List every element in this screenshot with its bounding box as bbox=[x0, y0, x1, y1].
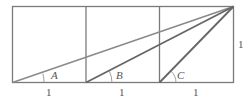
three-squares-diagram: A B C 1 1 1 1 bbox=[0, 0, 247, 100]
segment-c bbox=[160, 7, 234, 83]
bottom-length-label-2: 1 bbox=[119, 86, 125, 98]
angle-label-b: B bbox=[116, 69, 123, 81]
angle-arc-a bbox=[43, 74, 44, 83]
angle-label-c: C bbox=[177, 69, 185, 81]
segment-a bbox=[13, 7, 234, 83]
angle-arc-c bbox=[171, 71, 176, 83]
angle-arc-b bbox=[109, 71, 112, 83]
bottom-length-label-3: 1 bbox=[193, 86, 199, 98]
bottom-length-label-1: 1 bbox=[46, 86, 52, 98]
angle-label-a: A bbox=[50, 69, 58, 81]
side-length-label: 1 bbox=[238, 38, 244, 50]
